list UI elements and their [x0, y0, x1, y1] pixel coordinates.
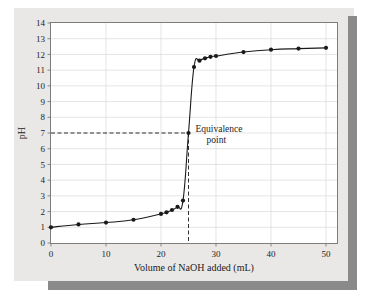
data-point-marker: [49, 225, 53, 229]
y-tick-label: 5: [41, 160, 46, 170]
equivalence-point-label-line1: Equivalence: [196, 124, 243, 134]
x-tick-label: 10: [102, 249, 112, 259]
y-tick-label: 8: [41, 112, 46, 122]
y-axis-tick-labels: 01234567891011121314: [36, 18, 46, 248]
data-point-marker: [324, 46, 328, 50]
data-point-marker: [164, 210, 168, 214]
y-tick-label: 0: [41, 238, 46, 248]
titration-curve-figure: 01234567891011121314 01020304050 Equival…: [0, 0, 371, 300]
data-point-marker: [181, 198, 185, 202]
data-point-marker: [170, 208, 174, 212]
data-point-marker: [159, 212, 163, 216]
y-tick-label: 10: [36, 81, 46, 91]
x-tick-label: 40: [267, 249, 277, 259]
x-tick-label: 30: [212, 249, 222, 259]
data-point-marker: [208, 55, 212, 59]
data-point-marker: [192, 65, 196, 69]
y-tick-label: 6: [41, 144, 46, 154]
data-point-marker: [269, 48, 273, 52]
chart-canvas: 01234567891011121314 01020304050 Equival…: [0, 0, 371, 300]
y-tick-label: 11: [36, 65, 45, 75]
equivalence-point-label-line2: point: [207, 135, 227, 145]
data-point-marker: [175, 205, 179, 209]
data-point-marker: [186, 131, 190, 135]
y-tick-label: 9: [41, 97, 46, 107]
y-axis-tick-marks: [48, 23, 52, 243]
data-point-marker: [76, 222, 80, 226]
equivalence-point-guides: [51, 133, 189, 243]
data-point-marker: [241, 50, 245, 54]
y-tick-label: 12: [36, 50, 45, 60]
y-tick-label: 7: [41, 128, 46, 138]
y-tick-label: 14: [36, 18, 46, 28]
x-axis-tick-marks: [51, 243, 326, 247]
x-tick-label: 50: [322, 249, 332, 259]
x-axis-title: Volume of NaOH added (mL): [134, 262, 254, 274]
y-tick-label: 13: [36, 34, 46, 44]
x-tick-label: 0: [49, 249, 54, 259]
data-point-marker: [296, 47, 300, 51]
data-point-marker: [131, 218, 135, 222]
y-tick-label: 1: [41, 222, 46, 232]
data-point-marker: [203, 56, 207, 60]
x-tick-label: 20: [157, 249, 167, 259]
data-point-marker: [104, 220, 108, 224]
y-tick-label: 2: [41, 207, 46, 217]
x-axis-tick-labels: 01020304050: [49, 249, 331, 259]
data-point-marker: [197, 59, 201, 63]
y-tick-label: 3: [41, 191, 46, 201]
y-tick-label: 4: [41, 175, 46, 185]
y-axis-title: pH: [16, 127, 27, 139]
data-point-marker: [214, 54, 218, 58]
